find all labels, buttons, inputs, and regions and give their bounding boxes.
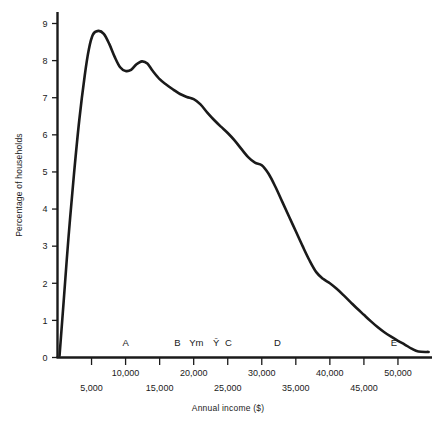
income-marker-B: B bbox=[174, 337, 180, 348]
income-distribution-chart: 0123456789 5,00010,00015,00020,00025,000… bbox=[0, 0, 438, 434]
y-axis-title: Percentage of households bbox=[14, 133, 24, 237]
income-marker-C: C bbox=[225, 337, 232, 348]
x-axis-group: 5,00010,00015,00020,00025,00030,00035,00… bbox=[57, 358, 433, 393]
x-tick-label: 45,000 bbox=[350, 383, 378, 393]
y-axis-group: 0123456789 bbox=[42, 12, 57, 363]
income-marker-D: D bbox=[274, 337, 281, 348]
x-tick-label: 35,000 bbox=[282, 383, 310, 393]
y-tick-label: 4 bbox=[42, 204, 47, 214]
income-point-markers: ABYmȲCDE bbox=[122, 337, 397, 348]
chart-plot-area: 0123456789 5,00010,00015,00020,00025,000… bbox=[0, 0, 438, 434]
x-tick-label: 50,000 bbox=[384, 368, 412, 378]
x-axis-title: Annual income ($) bbox=[192, 403, 264, 413]
income-marker-Ȳ: Ȳ bbox=[213, 337, 220, 348]
income-marker-A: A bbox=[122, 337, 129, 348]
x-axis-tick-labels: 5,00010,00015,00020,00025,00030,00035,00… bbox=[80, 368, 411, 393]
x-tick-label: 20,000 bbox=[180, 368, 208, 378]
income-marker-Ym: Ym bbox=[189, 337, 203, 348]
y-tick-label: 2 bbox=[42, 279, 47, 289]
x-tick-label: 5,000 bbox=[80, 383, 103, 393]
y-tick-label: 0 bbox=[42, 353, 47, 363]
y-tick-label: 7 bbox=[42, 93, 47, 103]
y-tick-label: 6 bbox=[42, 130, 47, 140]
y-axis-tick-labels: 0123456789 bbox=[42, 19, 47, 363]
y-tick-label: 8 bbox=[42, 56, 47, 66]
income-distribution-curve bbox=[60, 31, 429, 356]
x-tick-label: 15,000 bbox=[146, 383, 174, 393]
x-tick-label: 40,000 bbox=[316, 368, 344, 378]
x-tick-label: 10,000 bbox=[112, 368, 140, 378]
y-tick-label: 3 bbox=[42, 241, 47, 251]
y-tick-label: 9 bbox=[42, 19, 47, 29]
x-tick-label: 30,000 bbox=[248, 368, 276, 378]
x-tick-label: 25,000 bbox=[214, 383, 242, 393]
y-tick-label: 5 bbox=[42, 167, 47, 177]
y-tick-label: 1 bbox=[42, 316, 47, 326]
income-marker-E: E bbox=[391, 337, 397, 348]
